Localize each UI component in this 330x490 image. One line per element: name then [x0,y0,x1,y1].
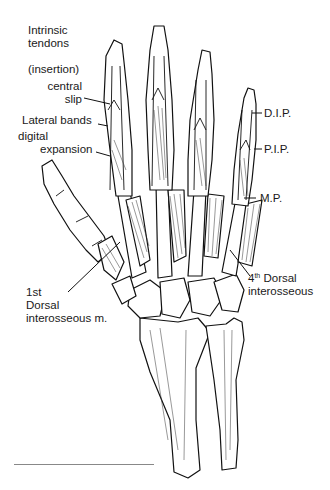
label-line: central [42,80,82,93]
label-line: interosseous [248,285,313,298]
label-line: slip [42,93,82,106]
label-line: 1st [26,286,107,299]
label-line: Dorsal [26,299,107,312]
label-line: interosseous m. [26,312,107,325]
footnote-divider [14,464,154,465]
thumb [42,160,124,280]
little-finger [232,88,256,206]
label-text: Dorsal [260,272,296,284]
label-1st-dorsal-interosseous: 1st Dorsal interosseous m. [26,286,107,325]
index-finger [104,40,132,196]
middle-finger [146,26,174,190]
radius-bone [140,318,210,478]
label-insertion: (insertion) [28,63,79,76]
label-mp: M.P. [260,192,282,205]
ring-finger [188,50,214,196]
label-central-slip: central slip [42,80,82,106]
label-4th-dorsal-interosseous: 4th Dorsal interosseous [248,272,313,298]
label-dip: D.I.P. [264,107,291,120]
label-digital-expansion-line1: digital [18,130,48,143]
carpal-bones [112,274,244,318]
label-line: 4th Dorsal [248,272,313,285]
label-lateral-bands: Lateral bands [22,114,92,127]
label-line: tendons [28,37,69,50]
label-pip: P.I.P. [264,143,289,156]
label-intrinsic-tendons: Intrinsic tendons [28,24,69,50]
hand-anatomy-figure: Intrinsic tendons (insertion) central sl… [0,0,330,490]
label-digital-expansion-line2: expansion [40,143,92,156]
label-line: Intrinsic [28,24,69,37]
